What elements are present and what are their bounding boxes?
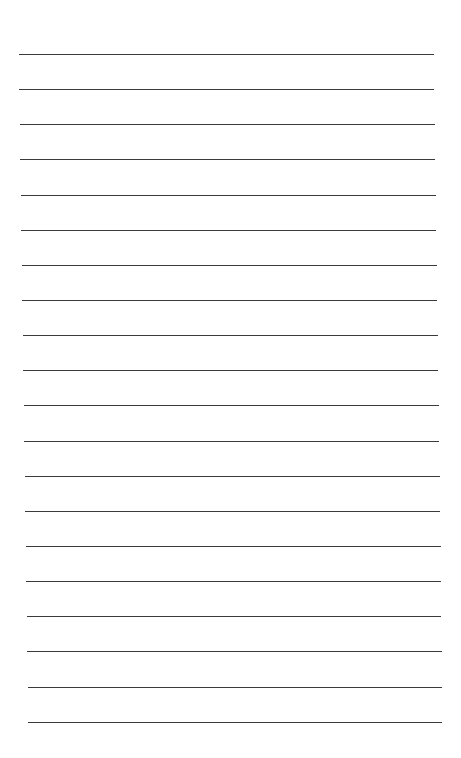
ruled-line [21, 230, 436, 231]
ruled-line [24, 441, 439, 442]
ruled-line [26, 581, 441, 582]
ruled-line [20, 159, 435, 160]
ruled-line [28, 722, 442, 723]
ruled-line [22, 265, 437, 266]
ruled-line [19, 54, 434, 55]
ruled-line [21, 195, 436, 196]
lined-paper-sheet [0, 0, 461, 758]
ruled-line [23, 335, 438, 336]
ruled-line [20, 124, 435, 125]
ruled-line [27, 651, 442, 652]
ruled-line [26, 546, 441, 547]
ruled-line [27, 616, 441, 617]
ruled-line [23, 370, 438, 371]
ruled-line [25, 511, 440, 512]
ruled-line [25, 476, 440, 477]
ruled-line [24, 405, 439, 406]
ruled-line [19, 89, 434, 90]
ruled-line [22, 300, 437, 301]
ruled-line [28, 687, 442, 688]
